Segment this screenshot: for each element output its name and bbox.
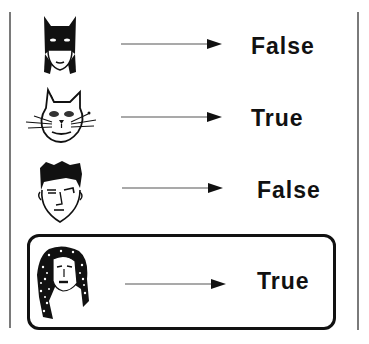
cat-face-icon [24, 86, 98, 146]
right-arrow-icon [125, 278, 227, 290]
curly-haired-woman-face-icon [35, 245, 91, 321]
result-label-false: False [251, 35, 315, 58]
result-label-true: True [257, 270, 310, 293]
boy-face-icon [36, 160, 86, 224]
right-arrow-icon [122, 182, 224, 194]
right-arrow-icon [121, 38, 223, 50]
right-border-line [357, 12, 359, 330]
left-border-line [9, 12, 11, 328]
result-label-true: True [251, 107, 304, 130]
result-label-false: False [257, 179, 321, 202]
masked-superhero-face-icon [40, 14, 80, 76]
right-arrow-icon [121, 111, 223, 123]
